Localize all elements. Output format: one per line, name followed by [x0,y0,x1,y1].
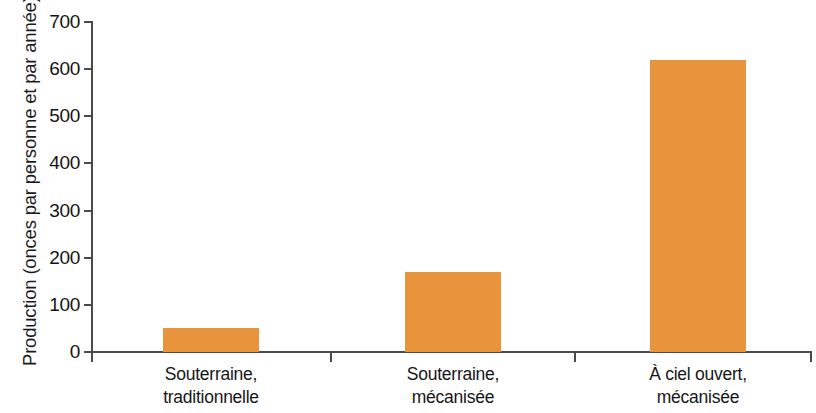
x-axis-category-label: Souterraine,traditionnelle [101,363,321,409]
bar [163,328,259,352]
x-tick-mark [330,353,332,362]
bar-chart: Production (onces par personne et par an… [0,0,816,413]
x-tick-mark [91,353,93,362]
bar [650,60,746,352]
x-axis-category-label: Souterraine,mécanisée [343,363,563,409]
category-label-line2: traditionnelle [101,386,321,409]
category-label-line2: mécanisée [343,386,563,409]
x-tick-mark [574,353,576,362]
category-label-line1: Souterraine, [343,363,563,386]
x-tick-mark [810,353,812,362]
category-label-line1: Souterraine, [101,363,321,386]
category-label-line1: À ciel ouvert, [588,363,808,386]
x-axis-category-label: À ciel ouvert,mécanisée [588,363,808,409]
category-label-line2: mécanisée [588,386,808,409]
bars-layer [0,0,816,352]
bar [405,272,501,352]
